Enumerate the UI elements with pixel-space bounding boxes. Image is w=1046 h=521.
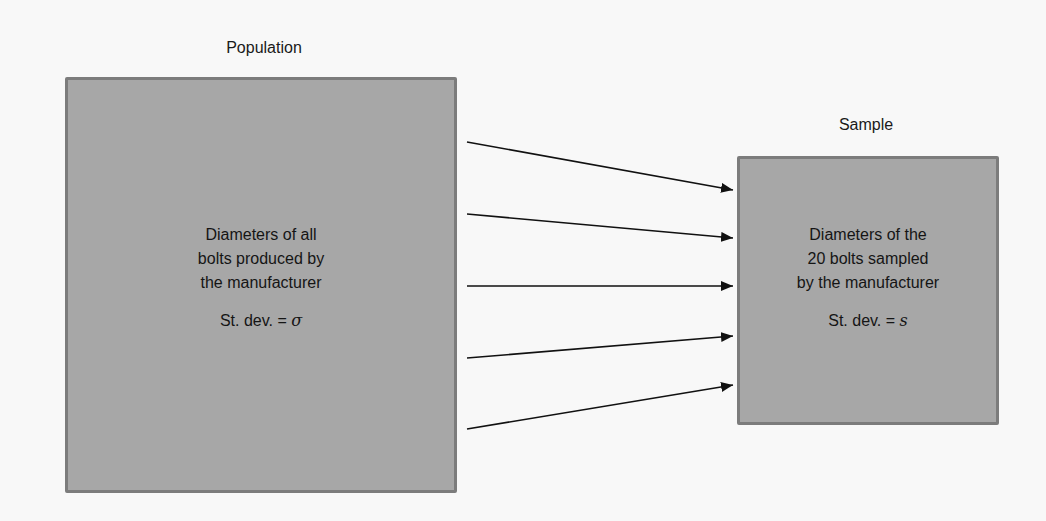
arrow-2-icon (467, 214, 733, 238)
arrow-4-icon (467, 336, 733, 358)
arrow-5-icon (467, 385, 733, 429)
arrow-1-icon (467, 142, 733, 190)
sampling-arrows (0, 0, 1046, 521)
